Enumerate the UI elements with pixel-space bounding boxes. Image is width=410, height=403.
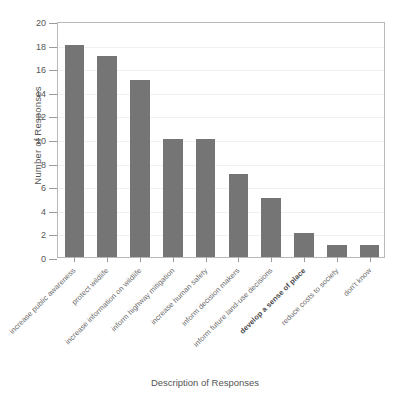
y-axis-tick-label: 12 [36, 112, 46, 122]
bar [196, 139, 216, 257]
y-axis-tick-label: 10 [36, 136, 46, 146]
bar [130, 80, 150, 257]
y-axis-tick [49, 212, 57, 213]
bar [97, 56, 117, 257]
plot-area: 02468101214161820 [57, 22, 385, 258]
bar [261, 198, 281, 257]
y-axis-tick-label: 4 [41, 207, 46, 217]
y-axis-tick-label: 20 [36, 18, 46, 28]
y-axis-tick [49, 47, 57, 48]
bar [360, 245, 380, 257]
y-axis-tick-label: 16 [36, 65, 46, 75]
y-axis-tick [49, 23, 57, 24]
y-axis-tick [49, 259, 57, 260]
x-axis-title: Description of Responses [0, 377, 410, 388]
y-axis-tick-label: 14 [36, 89, 46, 99]
x-axis-tick [304, 257, 305, 262]
bar [229, 174, 249, 257]
y-axis-tick-label: 2 [41, 230, 46, 240]
x-axis-tick [238, 257, 239, 262]
y-axis-tick [49, 141, 57, 142]
x-axis-tick [370, 257, 371, 262]
y-axis-tick-label: 0 [41, 254, 46, 264]
bar [294, 233, 314, 257]
x-axis-tick [337, 257, 338, 262]
x-axis-tick [206, 257, 207, 262]
x-axis-tick [271, 257, 272, 262]
y-axis-tick-label: 8 [41, 160, 46, 170]
gridline [58, 47, 384, 48]
x-axis-tick [140, 257, 141, 262]
bar [163, 139, 183, 257]
y-axis-tick-label: 18 [36, 42, 46, 52]
y-axis-tick [49, 94, 57, 95]
y-axis-tick [49, 235, 57, 236]
bar-chart-figure: Number of Responses 02468101214161820 in… [0, 0, 410, 403]
x-axis-tick [107, 257, 108, 262]
bar [327, 245, 347, 257]
x-axis-tick [74, 257, 75, 262]
y-axis-tick [49, 165, 57, 166]
y-axis-tick-label: 6 [41, 183, 46, 193]
y-axis-tick [49, 188, 57, 189]
y-axis-tick [49, 70, 57, 71]
bar [65, 45, 85, 257]
y-axis-tick [49, 117, 57, 118]
x-axis-tick [173, 257, 174, 262]
